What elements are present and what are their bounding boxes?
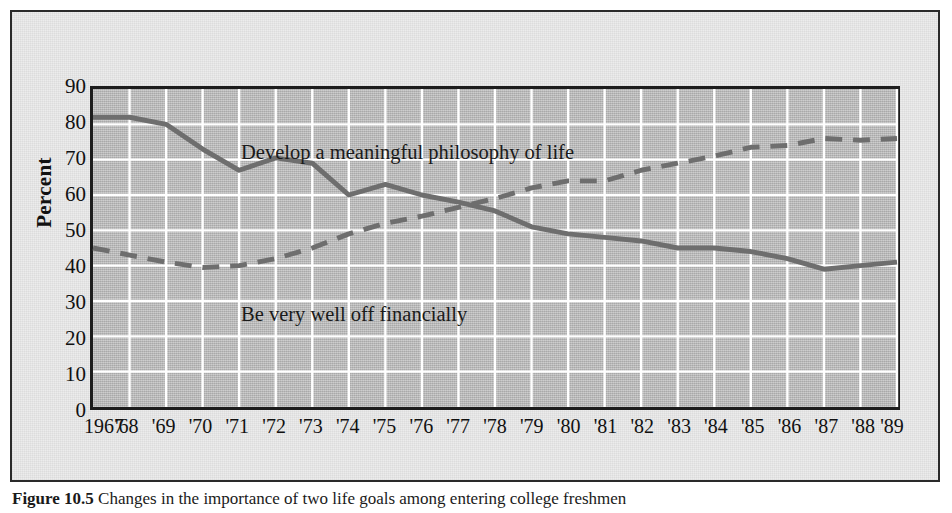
y-tick-label: 80: [52, 112, 86, 133]
y-tick-label: 20: [52, 328, 86, 349]
x-tick-label: '68: [115, 416, 139, 436]
x-tick-label: '70: [189, 416, 213, 436]
x-tick-label: '78: [483, 416, 507, 436]
x-tick-label: '86: [778, 416, 802, 436]
y-tick-label: 10: [52, 364, 86, 385]
x-tick-label: '71: [225, 416, 249, 436]
x-tick-label: '72: [262, 416, 286, 436]
x-tick-label: '74: [336, 416, 360, 436]
x-tick-label: '88: [851, 416, 875, 436]
x-tick-label: '76: [410, 416, 434, 436]
x-tick-label: '89: [880, 416, 904, 436]
plot-area: Develop a meaningful philosophy of life …: [90, 86, 900, 410]
figure-root: Percent 9080706050403020100 Develop a me…: [0, 0, 952, 513]
y-tick-label: 40: [52, 256, 86, 277]
x-tick-label: '85: [741, 416, 765, 436]
y-axis-tick-labels: 9080706050403020100: [44, 86, 86, 410]
annotation-develop-philosophy: Develop a meaningful philosophy of life: [241, 142, 574, 163]
x-tick-label: '87: [815, 416, 839, 436]
x-tick-label: '82: [630, 416, 654, 436]
y-tick-label: 90: [52, 76, 86, 97]
y-tick-label: 0: [52, 400, 86, 421]
x-tick-label: '75: [373, 416, 397, 436]
series-lines: [93, 89, 897, 407]
x-tick-label: '81: [594, 416, 618, 436]
x-tick-label: '69: [152, 416, 176, 436]
x-axis-tick-labels: 1967'68'69'70'71'72'73'74'75'76'77'78'79…: [90, 416, 900, 444]
figure-caption: Figure 10.5 Changes in the importance of…: [12, 489, 942, 509]
x-tick-label: '84: [704, 416, 728, 436]
figure-caption-label: Figure 10.5: [12, 489, 94, 508]
x-tick-label: '83: [667, 416, 691, 436]
y-tick-label: 70: [52, 148, 86, 169]
x-tick-label: '73: [299, 416, 323, 436]
x-tick-label: '77: [446, 416, 470, 436]
figure-frame: Percent 9080706050403020100 Develop a me…: [10, 10, 940, 482]
x-tick-label: '79: [520, 416, 544, 436]
annotation-be-well-off-financially: Be very well off financially: [241, 304, 467, 325]
x-tick-label: '80: [557, 416, 581, 436]
y-tick-label: 30: [52, 292, 86, 313]
y-tick-label: 60: [52, 184, 86, 205]
figure-caption-text: Changes in the importance of two life go…: [98, 489, 626, 508]
y-tick-label: 50: [52, 220, 86, 241]
